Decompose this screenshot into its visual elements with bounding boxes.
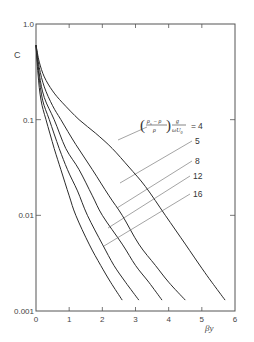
x-axis-label: βy: [204, 323, 213, 333]
curve-label-16: 16: [193, 189, 203, 199]
plot-frame: [36, 24, 235, 311]
axis-tick-labels: 01234561.00.10.010.001: [14, 20, 238, 324]
y-tick-label: 0.01: [18, 211, 34, 220]
x-tick-label: 5: [200, 315, 205, 324]
curve-label-8: 8: [195, 156, 200, 166]
x-tick-label: 6: [233, 315, 238, 324]
svg-text:(: (: [140, 117, 145, 134]
curve-label-5: 5: [195, 136, 200, 146]
leader-line-12: [108, 176, 190, 228]
curve-label-12: 12: [193, 171, 203, 181]
chart-canvas: 01234561.00.10.010.001 C βy ( ρs − ρ ρ )…: [0, 0, 254, 342]
curve-16: [36, 45, 122, 300]
y-tick-label: 0.1: [23, 116, 35, 125]
svg-text:): ): [166, 117, 171, 134]
svg-text:ρ: ρ: [152, 127, 156, 133]
x-tick-label: 0: [34, 315, 39, 324]
curve-labels: 4581216: [193, 121, 203, 199]
curve-12: [36, 45, 139, 300]
x-tick-label: 1: [67, 315, 72, 324]
svg-text:ρs − ρ: ρs − ρ: [146, 118, 162, 126]
formula-equals: =: [191, 121, 196, 131]
y-axis-label: C: [14, 50, 21, 60]
leader-lines: [104, 127, 192, 246]
curve-label-4: 4: [198, 121, 203, 131]
x-tick-label: 3: [133, 315, 138, 324]
x-tick-label: 2: [100, 315, 105, 324]
x-tick-label: 4: [166, 315, 171, 324]
leader-line-8: [117, 161, 192, 208]
svg-text:ωU0: ωU0: [172, 127, 183, 135]
leader-line-5: [120, 141, 192, 183]
legend-formula: ( ρs − ρ ρ ) g ωU0 =: [140, 117, 196, 135]
leader-line-16: [104, 194, 190, 246]
curve-5: [36, 45, 185, 300]
y-tick-label: 1.0: [23, 20, 35, 29]
axis-ticks: [36, 24, 235, 311]
svg-text:g: g: [176, 118, 179, 124]
y-tick-label: 0.001: [14, 307, 35, 316]
